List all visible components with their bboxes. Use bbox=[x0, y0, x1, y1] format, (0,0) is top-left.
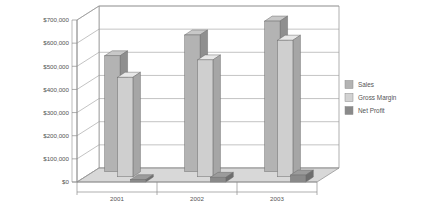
bar-side-face bbox=[293, 35, 301, 177]
bar-gross-margin-2002 bbox=[198, 55, 221, 177]
y-axis-tick-label: $500,000 bbox=[43, 63, 69, 70]
bar-front-face bbox=[290, 175, 305, 182]
legend-label: Gross Margin bbox=[358, 94, 397, 102]
legend-swatch bbox=[345, 81, 353, 89]
bar-side-face bbox=[213, 55, 221, 177]
chart-container: $0$100,000$200,000$300,000$400,000$500,0… bbox=[0, 0, 430, 214]
legend-item-net-profit[interactable]: Net Profit bbox=[345, 107, 385, 115]
y-axis-tick-label: $300,000 bbox=[43, 109, 69, 116]
y-axis-tick-label: $100,000 bbox=[43, 155, 69, 162]
bar-front-face bbox=[278, 40, 293, 177]
legend-swatch bbox=[345, 94, 353, 102]
legend-swatch bbox=[345, 107, 353, 115]
bar-gross-margin-2003 bbox=[278, 35, 301, 177]
y-axis-tick-label: $600,000 bbox=[43, 39, 69, 46]
y-axis-tick-label: $400,000 bbox=[43, 86, 69, 93]
bar-chart-3d: $0$100,000$200,000$300,000$400,000$500,0… bbox=[0, 0, 430, 214]
legend-label: Net Profit bbox=[358, 107, 385, 114]
y-axis-tick-label: $0 bbox=[62, 178, 69, 185]
y-axis-tick-label: $200,000 bbox=[43, 132, 69, 139]
x-axis-category-label: 2003 bbox=[270, 195, 284, 202]
legend-item-sales[interactable]: Sales bbox=[345, 81, 374, 89]
legend-label: Sales bbox=[358, 81, 374, 88]
legend-item-gross-margin[interactable]: Gross Margin bbox=[345, 94, 397, 103]
bar-front-face bbox=[210, 177, 225, 182]
bar-front-face bbox=[118, 77, 133, 177]
x-axis-category-label: 2002 bbox=[190, 195, 204, 202]
y-axis-tick-label: $700,000 bbox=[43, 16, 69, 23]
x-axis-category-label: 2001 bbox=[110, 195, 124, 202]
bar-gross-margin-2001 bbox=[118, 72, 141, 177]
bar-side-face bbox=[133, 72, 141, 177]
chart-left-wall bbox=[77, 6, 99, 182]
bar-front-face bbox=[198, 60, 213, 177]
